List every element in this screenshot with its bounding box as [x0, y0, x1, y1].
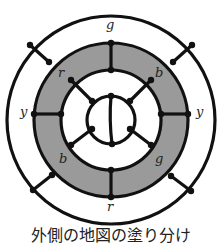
- vertex: [30, 187, 36, 193]
- label-bottom: r: [107, 199, 114, 214]
- vertex: [46, 59, 52, 65]
- caption: 外側の地図の塗り分け: [0, 222, 222, 246]
- label-lower-left: b: [59, 151, 67, 166]
- vertex: [127, 98, 133, 104]
- vertex: [170, 59, 176, 65]
- label-upper-right: b: [155, 65, 163, 80]
- label-upper-left: r: [58, 65, 65, 80]
- vertex: [27, 42, 33, 48]
- vertex: [168, 173, 174, 179]
- vertex: [108, 167, 114, 173]
- label-left: y: [19, 104, 28, 119]
- vertex: [188, 188, 194, 194]
- vertex: [89, 98, 95, 104]
- label-lower-right: g: [155, 151, 163, 166]
- vertex: [158, 111, 164, 117]
- vertex: [148, 77, 154, 83]
- vertex: [108, 67, 114, 73]
- vertex: [68, 142, 74, 148]
- vertex: [31, 111, 37, 117]
- edge: [110, 96, 112, 144]
- vertex: [148, 142, 154, 148]
- vertex: [127, 126, 133, 132]
- vertex: [68, 77, 74, 83]
- vertex: [108, 93, 114, 99]
- vertex: [108, 40, 114, 46]
- vertex: [89, 126, 95, 132]
- label-top: g: [106, 17, 114, 32]
- label-right: y: [195, 104, 204, 119]
- vertex: [49, 172, 55, 178]
- vertex: [109, 141, 115, 147]
- vertex: [185, 111, 191, 117]
- vertex: [58, 111, 64, 117]
- vertex: [189, 42, 195, 48]
